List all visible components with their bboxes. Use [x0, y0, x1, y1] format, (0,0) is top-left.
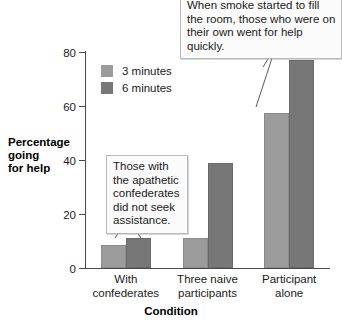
- x-axis-category-labels: WithconfederatesThree naiveparticipantsP…: [85, 272, 330, 302]
- bar: [264, 113, 289, 268]
- legend-label-6-minutes: 6 minutes: [122, 82, 172, 94]
- bar-chart-figure: 0 20 40 60 80 WithconfederatesThree naiv…: [0, 0, 342, 327]
- x-axis-category-label-line: Participant: [248, 272, 330, 286]
- bar: [183, 238, 208, 268]
- y-axis-tick-label-20: 20: [63, 209, 76, 221]
- bar: [289, 60, 314, 268]
- y-axis-tick-label-60: 60: [63, 101, 76, 113]
- x-axis-category-label-line: Three naive: [167, 272, 249, 286]
- x-axis-title: Condition: [0, 305, 342, 317]
- y-axis-title: Percentage going for help: [8, 136, 80, 175]
- legend: 3 minutes 6 minutes: [101, 62, 172, 96]
- legend-item-6-minutes: 6 minutes: [101, 79, 172, 96]
- y-axis-tick-0: 0: [79, 268, 85, 269]
- y-axis-title-line-3: for help: [8, 162, 80, 175]
- x-axis-category-label: Participantalone: [248, 272, 330, 300]
- legend-item-3-minutes: 3 minutes: [101, 62, 172, 79]
- x-axis-category-label-line: participants: [167, 286, 249, 300]
- legend-swatch-icon-6-minutes: [101, 82, 113, 94]
- bar-group: [264, 52, 314, 268]
- legend-swatch-icon-3-minutes: [101, 65, 113, 77]
- x-axis-category-label: Withconfederates: [85, 272, 167, 300]
- x-axis-category-label-line: With: [85, 272, 167, 286]
- callout-apathetic-confederates: Those with the apathetic confederates di…: [106, 155, 188, 234]
- x-axis-category-label-line: alone: [248, 286, 330, 300]
- bar: [126, 238, 151, 268]
- y-axis-title-line-1: Percentage: [8, 136, 80, 149]
- y-axis-tick-label-0: 0: [70, 263, 76, 275]
- legend-label-3-minutes: 3 minutes: [122, 65, 172, 77]
- x-axis-category-label-line: confederates: [85, 286, 167, 300]
- y-axis-tick-label-80: 80: [63, 47, 76, 59]
- bar: [208, 163, 233, 268]
- y-axis-title-line-2: going: [8, 149, 80, 162]
- callout-smoke-filled-room: When smoke started to fill the room, tho…: [180, 0, 342, 59]
- bar-group: [183, 52, 233, 268]
- x-axis-category-label: Three naiveparticipants: [167, 272, 249, 300]
- x-axis-line: [85, 268, 330, 269]
- bar: [101, 245, 126, 268]
